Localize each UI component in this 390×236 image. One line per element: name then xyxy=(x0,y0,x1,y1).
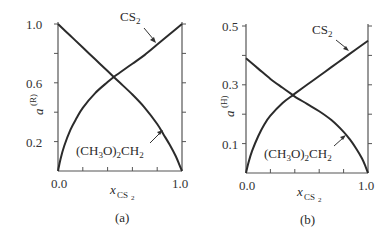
svg-text:a: a xyxy=(222,110,237,117)
panel-b-ytick-0-1: 0.1 xyxy=(222,137,238,152)
panel-a-xtick-0-0: 0.0 xyxy=(51,176,67,191)
svg-text:(H): (H) xyxy=(219,96,229,109)
panel-b-ytick-0-3: 0.3 xyxy=(222,77,238,92)
panel-b-axes xyxy=(242,24,372,173)
panel-a-ytick-0-2: 0.2 xyxy=(26,135,42,150)
svg-text:CS: CS xyxy=(304,192,315,202)
svg-text:x: x xyxy=(109,182,116,197)
cs2-label: CS2 xyxy=(120,9,140,26)
panel-b: 0.5 0.3 0.1 0.0 1.0 a (H) x CS 2 CS2 (CH… xyxy=(219,19,374,227)
dimethoxymethane-label: (CH3O)2CH2 xyxy=(264,146,332,163)
panel-b-ylabel: a (H) xyxy=(219,96,237,118)
figure: 1.0 0.6 0.2 0.0 1.0 a (R) x CS 2 CS2 xyxy=(0,0,390,236)
panel-a-caption: (a) xyxy=(115,210,129,225)
panel-b-labels: 0.5 0.3 0.1 0.0 1.0 a (H) x CS 2 CS2 (CH… xyxy=(219,19,374,227)
arrowhead-icon xyxy=(150,37,156,43)
panel-a-dimethoxymethane-annotation: (CH3O)2CH2 xyxy=(76,130,163,160)
panel-a-ylabel: a (R) xyxy=(28,94,46,115)
panel-a-xtick-1-0: 1.0 xyxy=(172,176,188,191)
svg-text:a: a xyxy=(31,108,46,115)
panel-b-xtick-0-0: 0.0 xyxy=(239,178,255,193)
panel-b-cs2-annotation: CS2 xyxy=(312,22,349,51)
panel-b-xtick-1-0: 1.0 xyxy=(358,178,374,193)
panel-a-axes xyxy=(54,22,186,171)
svg-text:x: x xyxy=(296,184,303,199)
svg-text:CS: CS xyxy=(117,190,128,200)
arrow-icon xyxy=(336,40,346,48)
arrow-icon xyxy=(334,138,343,146)
svg-text:2: 2 xyxy=(131,194,135,202)
svg-text:2: 2 xyxy=(318,196,322,204)
panel-a-ytick-1-0: 1.0 xyxy=(26,17,42,32)
cs2-label: CS2 xyxy=(312,22,332,39)
panel-a-xlabel: x CS 2 xyxy=(109,182,135,202)
panel-a-cs2-annotation: CS2 xyxy=(120,9,156,43)
svg-text:(R): (R) xyxy=(28,94,38,106)
panel-b-dimethoxymethane-annotation: (CH3O)2CH2 xyxy=(264,135,346,163)
panel-b-xlabel: x CS 2 xyxy=(296,184,322,204)
dimethoxymethane-label: (CH3O)2CH2 xyxy=(76,143,144,160)
panel-b-ytick-0-5: 0.5 xyxy=(222,19,238,34)
panel-a-ytick-0-6: 0.6 xyxy=(26,76,43,91)
panel-b-caption: (b) xyxy=(300,212,315,227)
panel-a-labels: 1.0 0.6 0.2 0.0 1.0 a (R) x CS 2 CS2 xyxy=(26,9,188,225)
arrow-icon xyxy=(150,133,160,143)
panel-a: 1.0 0.6 0.2 0.0 1.0 a (R) x CS 2 CS2 xyxy=(26,9,188,225)
